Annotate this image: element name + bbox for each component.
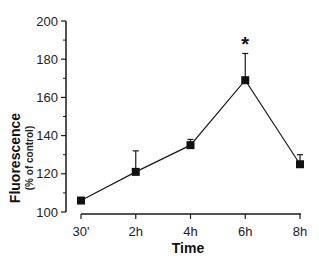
data-point-marker: [77, 197, 85, 205]
data-series: [77, 53, 304, 204]
line-chart: 10012014016018020030'2h4h6h8hTimeFluores…: [0, 0, 319, 262]
y-axis-subtitle: (% of control): [24, 126, 35, 190]
y-tick-label: 160: [36, 90, 58, 105]
data-point-marker: [187, 141, 195, 149]
x-tick-label: 6h: [238, 224, 252, 239]
y-tick-label: 120: [36, 166, 58, 181]
x-tick-label: 30': [73, 224, 90, 239]
data-point-marker: [132, 168, 140, 176]
y-tick-label: 140: [36, 128, 58, 143]
y-axis-title: Fluorescence: [7, 113, 23, 203]
data-point-marker: [241, 76, 249, 84]
x-axis: 30'2h4h6h8h: [73, 214, 308, 239]
x-axis-title: Time: [172, 240, 205, 256]
y-tick-label: 100: [36, 205, 58, 220]
y-tick-label: 200: [36, 14, 58, 29]
x-tick-label: 4h: [183, 224, 197, 239]
x-tick-label: 8h: [293, 224, 307, 239]
significance-asterisk: *: [241, 33, 249, 55]
data-point-marker: [296, 160, 304, 168]
x-tick-label: 2h: [129, 224, 143, 239]
y-axis: 100120140160180200: [36, 14, 66, 220]
y-tick-label: 180: [36, 52, 58, 67]
